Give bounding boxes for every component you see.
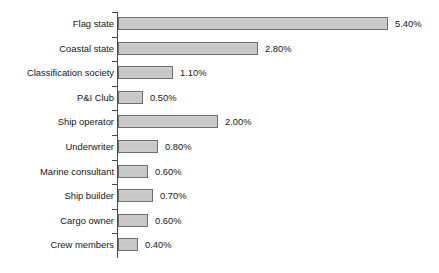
bar-container [118,17,388,30]
bar-value-label: 0.40% [145,238,172,251]
bar [118,189,153,202]
bar [118,140,158,153]
bar-container [118,214,148,227]
bar-value-label: 0.60% [155,214,182,227]
bar-value-label: 0.70% [160,189,187,202]
bar-value-label: 2.00% [225,115,252,128]
bar-row: Cargo owner0.60% [0,209,439,234]
category-label: Flag state [73,12,114,37]
bar [118,165,148,178]
category-label: Marine consultant [40,160,114,185]
bar-row: P&I Club0.50% [0,86,439,111]
category-label: Coastal state [59,37,114,62]
bar-container [118,140,158,153]
bar-value-label: 0.60% [155,165,182,178]
bar [118,238,138,251]
bar [118,42,258,55]
bar-row: Coastal state2.80% [0,37,439,62]
bar-container [118,189,153,202]
bar-value-label: 0.50% [150,91,177,104]
bar-container [118,66,173,79]
bar-row: Marine consultant0.60% [0,160,439,185]
bar-value-label: 5.40% [395,17,422,30]
bar-rows: Flag state5.40%Coastal state2.80%Classif… [0,12,439,258]
bar-value-label: 1.10% [180,66,207,79]
bar-value-label: 2.80% [265,42,292,55]
bar-container [118,42,258,55]
bar-container [118,91,143,104]
bar-row: Underwriter0.80% [0,135,439,160]
bar [118,214,148,227]
bar [118,17,388,30]
bar-row: Flag state5.40% [0,12,439,37]
bar-row: Ship builder0.70% [0,184,439,209]
bar-chart: Flag state5.40%Coastal state2.80%Classif… [0,0,439,273]
category-label: P&I Club [77,86,114,111]
bar [118,66,173,79]
category-label: Underwriter [66,135,114,160]
bar [118,91,143,104]
category-label: Ship builder [64,184,114,209]
bar-row: Ship operator2.00% [0,110,439,135]
category-label: Crew members [50,233,114,258]
bar-row: Classification society1.10% [0,61,439,86]
category-label: Ship operator [58,110,114,135]
bar [118,115,218,128]
bar-value-label: 0.80% [165,140,192,153]
category-label: Cargo owner [60,209,114,234]
bar-container [118,238,138,251]
bar-container [118,165,148,178]
bar-container [118,115,218,128]
category-label: Classification society [27,61,114,86]
bar-row: Crew members0.40% [0,233,439,258]
